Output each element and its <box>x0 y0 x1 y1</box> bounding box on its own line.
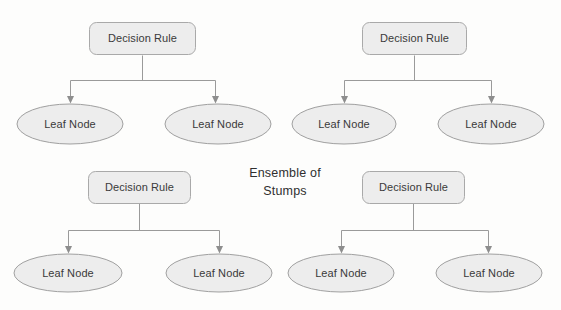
arrow-head-left-icon <box>341 96 348 104</box>
connector-group-bottom-right <box>338 204 492 254</box>
center-caption-line-1: Ensemble of <box>249 166 321 180</box>
decision-rule-label: Decision Rule <box>108 32 177 44</box>
arrow-head-right-icon <box>488 96 495 104</box>
arrow-head-right-icon <box>212 96 219 104</box>
center-caption: Ensemble of Stumps <box>249 166 321 198</box>
connector-group-bottom-left <box>65 204 223 254</box>
arrow-head-left-icon <box>338 246 345 254</box>
stump-top-left: Decision Rule Leaf Node Leaf Node <box>17 23 271 145</box>
stump-bottom-right: Decision Rule Leaf Node Leaf Node <box>288 172 542 293</box>
connector-group-top-left <box>67 56 219 104</box>
leaf-node-label: Leaf Node <box>44 118 96 130</box>
leaf-node-label: Leaf Node <box>192 118 244 130</box>
arrow-head-left-icon <box>65 246 72 254</box>
stump-bottom-left: Decision Rule Leaf Node Leaf Node <box>14 172 272 293</box>
leaf-node-label: Leaf Node <box>42 267 94 279</box>
arrow-head-right-icon <box>485 246 492 254</box>
leaf-node-label: Leaf Node <box>315 267 367 279</box>
arrow-head-left-icon <box>67 96 74 104</box>
diagram-canvas: Decision Rule Leaf Node Leaf Node Decisi… <box>0 0 561 310</box>
center-caption-line-2: Stumps <box>263 184 307 198</box>
decision-rule-label: Decision Rule <box>380 32 449 44</box>
leaf-node-label: Leaf Node <box>193 267 245 279</box>
stump-top-right: Decision Rule Leaf Node Leaf Node <box>292 23 544 145</box>
connector-group-top-right <box>341 56 495 104</box>
leaf-node-label: Leaf Node <box>463 267 515 279</box>
leaf-node-label: Leaf Node <box>465 118 517 130</box>
decision-rule-label: Decision Rule <box>105 181 174 193</box>
decision-rule-label: Decision Rule <box>379 181 448 193</box>
arrow-head-right-icon <box>216 246 223 254</box>
leaf-node-label: Leaf Node <box>318 118 370 130</box>
